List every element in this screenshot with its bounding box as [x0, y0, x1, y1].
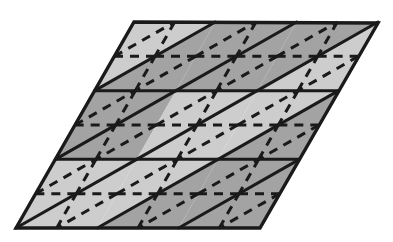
- triangular-lattice-diagram: Rhombus subdivided into triangular latti…: [0, 0, 393, 242]
- figure-root: Rhombus subdivided into triangular latti…: [0, 0, 393, 242]
